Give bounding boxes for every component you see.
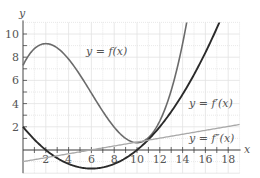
curve-f	[23, 0, 240, 143]
y-tick-label: 10	[5, 28, 19, 41]
x-axis-label: x	[244, 143, 251, 156]
label-f: y = f(x)	[85, 45, 127, 58]
x-tick-label: 12	[153, 153, 167, 166]
y-tick-label: 6	[12, 74, 19, 87]
x-tick-label: 6	[88, 153, 95, 166]
x-tick-label: 16	[198, 153, 212, 166]
y-axis-label: y	[18, 7, 26, 20]
x-tick-label: 2	[42, 153, 49, 166]
y-tick-label: 8	[12, 51, 19, 64]
label-f-double-prime: y = f″(x)	[188, 132, 234, 145]
function-derivatives-chart: 24681012141618246810 x y y = f(x) y = f′…	[0, 0, 260, 178]
x-tick-label: 10	[130, 153, 144, 166]
label-f-prime: y = f′(x)	[188, 97, 233, 110]
x-tick-label: 14	[176, 153, 190, 166]
y-tick-label: 2	[12, 121, 19, 134]
x-tick-label: 18	[221, 153, 235, 166]
y-tick-label: 4	[12, 98, 19, 111]
